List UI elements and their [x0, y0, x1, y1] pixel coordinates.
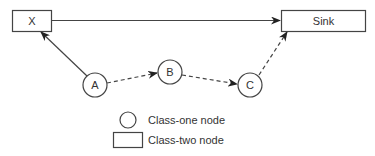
node-x-label: X: [28, 15, 36, 27]
legend-circle-icon: [120, 112, 136, 128]
node-x: X: [13, 11, 52, 32]
edge-a-to-b: [107, 73, 157, 83]
edge-c-to-sink: [259, 32, 287, 75]
edge-b-to-c: [182, 75, 237, 84]
node-a: A: [83, 73, 107, 97]
node-c: C: [238, 73, 262, 97]
node-a-label: A: [91, 79, 99, 91]
node-c-label: C: [246, 79, 254, 91]
legend-class-two-label: Class-two node: [148, 134, 224, 146]
node-sink: Sink: [282, 11, 366, 32]
edge-a-to-x: [41, 32, 87, 76]
legend: Class-one node Class-two node: [114, 112, 226, 148]
legend-rect-icon: [114, 133, 143, 148]
node-b-label: B: [166, 66, 173, 78]
node-b: B: [158, 60, 182, 84]
legend-class-one-label: Class-one node: [148, 114, 225, 126]
diagram-canvas: X Sink A B C Class-one node Class-two no…: [0, 0, 375, 156]
node-sink-label: Sink: [313, 15, 335, 27]
